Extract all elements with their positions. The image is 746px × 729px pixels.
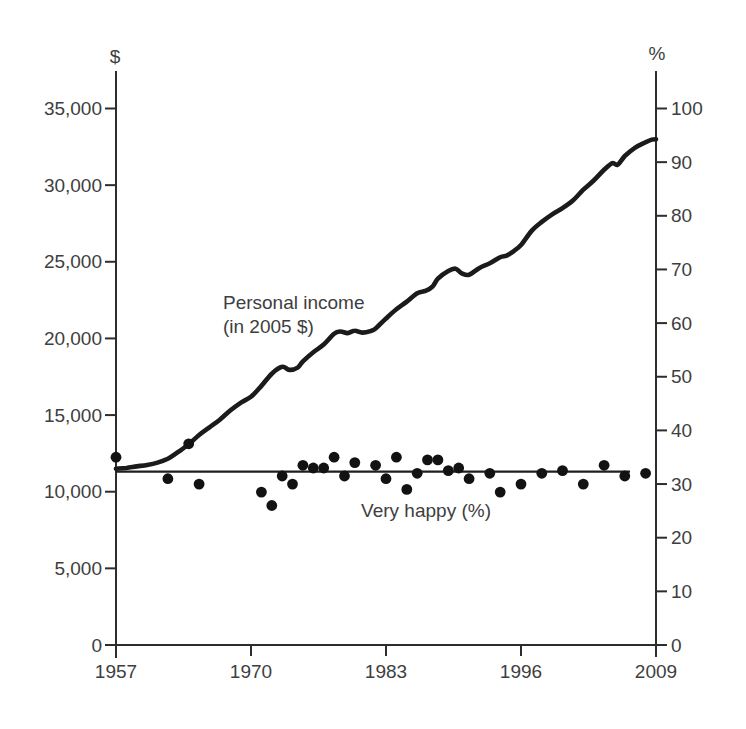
right-axis-tick-label: 40	[671, 420, 692, 441]
left-axis-tick-label: 10,000	[44, 481, 102, 502]
very-happy-data-point	[619, 471, 630, 482]
very-happy-data-point	[339, 471, 350, 482]
very-happy-data-point	[318, 463, 329, 474]
very-happy-data-point	[412, 468, 423, 479]
very-happy-data-point	[557, 465, 568, 476]
right-axis-tick-label: 90	[671, 152, 692, 173]
very-happy-data-point	[194, 479, 205, 490]
very-happy-data-point	[277, 471, 288, 482]
left-axis-tick-label: 30,000	[44, 175, 102, 196]
x-axis-tick-label: 1996	[500, 661, 542, 682]
very-happy-data-point	[329, 452, 340, 463]
right-axis-tick-label: 10	[671, 581, 692, 602]
very-happy-data-point	[308, 463, 319, 474]
left-axis-tick-label: 5,000	[54, 558, 102, 579]
very-happy-data-point	[266, 500, 277, 511]
very-happy-data-point	[391, 452, 402, 463]
very-happy-data-point	[464, 473, 475, 484]
very-happy-data-point	[453, 463, 464, 474]
right-axis-tick-label: 100	[671, 98, 703, 119]
left-axis-tick-label: 15,000	[44, 405, 102, 426]
very-happy-data-point	[536, 468, 547, 479]
very-happy-data-point	[370, 460, 381, 471]
very-happy-data-point	[422, 455, 433, 466]
left-axis-tick-label: 35,000	[44, 98, 102, 119]
income-label-line1: Personal income	[223, 292, 365, 313]
right-axis-tick-label: 30	[671, 474, 692, 495]
left-axis-tick-label: 25,000	[44, 251, 102, 272]
very-happy-data-point	[484, 468, 495, 479]
very-happy-data-point	[599, 460, 610, 471]
very-happy-data-point	[433, 455, 444, 466]
income-label-line2: (in 2005 $)	[223, 316, 314, 337]
very-happy-data-point	[163, 473, 174, 484]
x-axis-tick-label: 1983	[365, 661, 407, 682]
right-axis-tick-label: 60	[671, 313, 692, 334]
right-axis-unit-label: %	[649, 43, 666, 64]
very-happy-data-point	[640, 468, 651, 479]
very-happy-data-point	[516, 479, 527, 490]
x-axis-tick-label: 2009	[635, 661, 677, 682]
right-axis-tick-label: 70	[671, 259, 692, 280]
right-axis-tick-label: 0	[671, 635, 682, 656]
very-happy-data-point	[287, 479, 298, 490]
very-happy-data-point	[349, 457, 360, 468]
very-happy-data-point	[495, 487, 506, 498]
right-axis-tick-label: 20	[671, 527, 692, 548]
x-axis-tick-label: 1970	[230, 661, 272, 682]
happy-label: Very happy (%)	[361, 500, 491, 521]
income-happiness-chart: 05,00010,00015,00020,00025,00030,00035,0…	[0, 0, 746, 729]
right-axis-tick-label: 50	[671, 366, 692, 387]
very-happy-data-point	[111, 452, 122, 463]
very-happy-data-point	[401, 484, 412, 495]
very-happy-data-point	[183, 438, 194, 449]
figure: 05,00010,00015,00020,00025,00030,00035,0…	[0, 0, 746, 729]
left-axis-tick-label: 0	[91, 635, 102, 656]
very-happy-data-point	[298, 460, 309, 471]
right-axis-tick-label: 80	[671, 205, 692, 226]
very-happy-data-point	[443, 465, 454, 476]
very-happy-data-point	[256, 487, 267, 498]
left-axis-tick-label: 20,000	[44, 328, 102, 349]
left-axis-unit-label: $	[110, 46, 121, 67]
x-axis-tick-label: 1957	[95, 661, 137, 682]
very-happy-data-point	[578, 479, 589, 490]
personal-income-curve	[116, 139, 656, 469]
very-happy-data-point	[381, 473, 392, 484]
